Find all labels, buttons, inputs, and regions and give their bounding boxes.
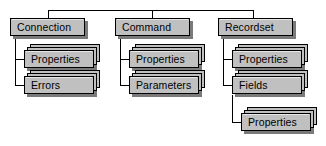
node-connection[interactable]: Connection xyxy=(10,18,85,36)
node-connection-properties-label: Properties xyxy=(24,50,94,68)
connector-fields-to-properties xyxy=(232,122,241,123)
connector-fields-spine xyxy=(232,95,233,122)
node-command-properties-label: Properties xyxy=(129,50,199,68)
node-recordset-fields-label: Fields xyxy=(232,76,302,94)
connector-bus-to-connection xyxy=(48,10,49,18)
connector-connection-spine xyxy=(15,36,16,85)
connector-command-spine xyxy=(120,36,121,85)
connector-command-to-properties xyxy=(120,59,129,60)
node-fields-properties-label: Properties xyxy=(241,113,311,131)
diagram-canvas: Connection Properties Errors Command Pro… xyxy=(0,0,326,146)
connector-bus-to-command xyxy=(152,10,153,18)
node-fields-properties[interactable]: Properties xyxy=(241,113,311,131)
node-recordset-properties-label: Properties xyxy=(232,50,302,68)
node-connection-label: Connection xyxy=(10,18,85,36)
connector-recordset-spine xyxy=(223,36,224,85)
node-recordset[interactable]: Recordset xyxy=(218,18,293,36)
node-command-label: Command xyxy=(115,18,190,36)
node-recordset-label: Recordset xyxy=(218,18,293,36)
connector-connection-to-properties xyxy=(15,59,24,60)
node-connection-properties[interactable]: Properties xyxy=(24,50,94,68)
node-command-parameters[interactable]: Parameters xyxy=(129,76,199,94)
node-command-properties[interactable]: Properties xyxy=(129,50,199,68)
node-connection-errors[interactable]: Errors xyxy=(24,76,94,94)
node-connection-errors-label: Errors xyxy=(24,76,94,94)
connector-recordset-to-fields xyxy=(223,85,232,86)
connector-connection-to-errors xyxy=(15,85,24,86)
node-recordset-properties[interactable]: Properties xyxy=(232,50,302,68)
connector-bus-to-recordset xyxy=(253,10,254,18)
root-bus-horizontal-line xyxy=(48,10,254,11)
connector-command-to-parameters xyxy=(120,85,129,86)
connector-recordset-to-properties xyxy=(223,59,232,60)
node-recordset-fields[interactable]: Fields xyxy=(232,76,302,94)
node-command[interactable]: Command xyxy=(115,18,190,36)
node-command-parameters-label: Parameters xyxy=(129,76,199,94)
